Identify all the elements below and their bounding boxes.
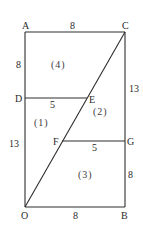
- region-label-2: (2): [93, 106, 108, 118]
- point-label-O: O: [21, 210, 28, 221]
- length-label-OB: 8: [73, 210, 78, 221]
- point-label-F: F: [53, 136, 59, 147]
- point-label-A: A: [22, 20, 30, 31]
- point-label-B: B: [121, 210, 128, 221]
- length-label-GB: 8: [128, 169, 133, 180]
- length-label-AD: 8: [16, 59, 21, 70]
- point-label-C: C: [122, 20, 129, 31]
- point-label-G: G: [127, 136, 134, 147]
- geometry-diagram: A C D E F G O B 8 8 13 13 8 8 5 5 (4) (1…: [0, 0, 143, 232]
- length-label-FG: 5: [92, 142, 97, 153]
- region-label-3: (3): [78, 169, 93, 181]
- length-label-DE: 5: [50, 99, 55, 110]
- region-label-1: (1): [34, 117, 49, 129]
- region-label-4: (4): [51, 59, 66, 71]
- length-label-AC: 8: [70, 20, 75, 31]
- point-label-E: E: [89, 94, 95, 105]
- length-label-DO: 13: [9, 138, 19, 149]
- point-label-D: D: [15, 93, 22, 104]
- length-label-CG: 13: [129, 83, 139, 94]
